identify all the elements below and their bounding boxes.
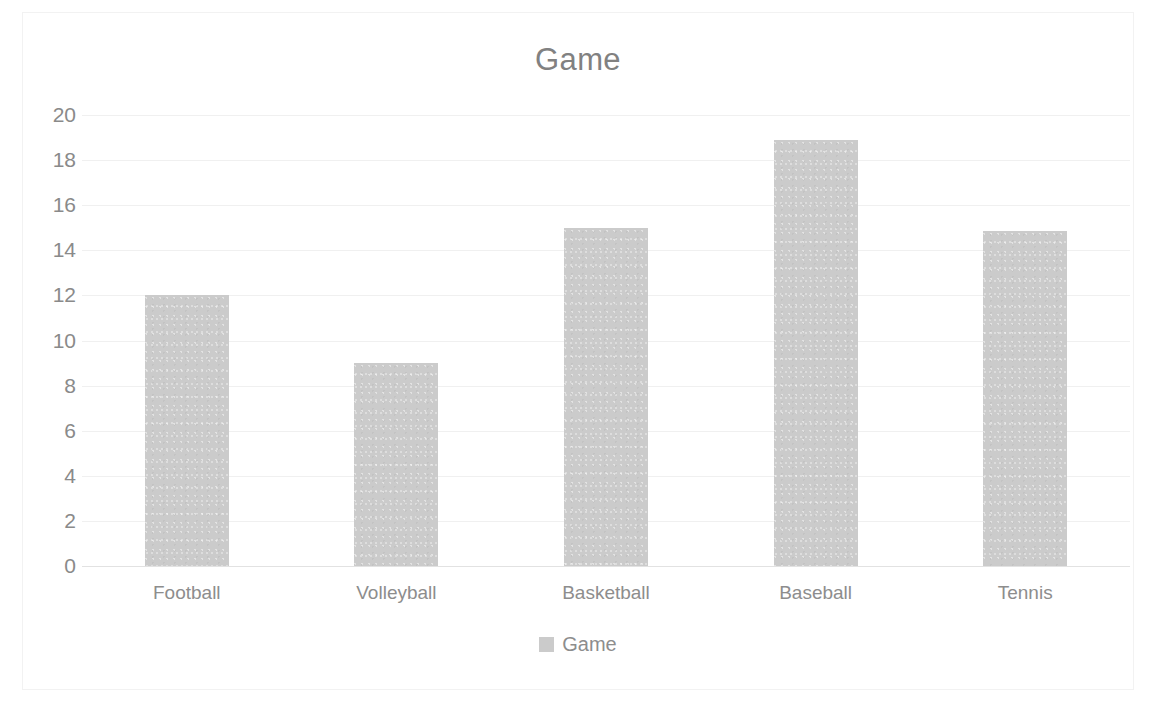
bar-baseball[interactable]: [774, 140, 858, 566]
chart-container: Game 20181614121086420 FootballVolleybal…: [0, 0, 1156, 710]
y-tick-label: 2: [20, 510, 76, 531]
y-tick-label: 8: [20, 375, 76, 396]
x-tick-label-basketball: Basketball: [501, 580, 711, 606]
x-tick-label-football: Football: [82, 580, 292, 606]
gridline-0: [82, 566, 1130, 567]
x-axis-category-labels: FootballVolleyballBasketballBaseballTenn…: [82, 580, 1130, 614]
y-tick-label: 10: [20, 330, 76, 351]
y-tick-label: 0: [20, 555, 76, 576]
y-tick-label: 6: [20, 420, 76, 441]
bar-tennis[interactable]: [983, 231, 1067, 566]
bar-slot: [145, 115, 229, 566]
bar-football[interactable]: [145, 295, 229, 566]
plot-area: [82, 115, 1130, 566]
bar-slot: [983, 115, 1067, 566]
bar-slot: [774, 115, 858, 566]
y-tick-label: 4: [20, 465, 76, 486]
y-tick-label: 16: [20, 194, 76, 215]
bar-basketball[interactable]: [564, 228, 648, 566]
chart-legend: Game: [0, 634, 1156, 654]
x-tick-label-tennis: Tennis: [920, 580, 1130, 606]
bar-volleyball[interactable]: [354, 363, 438, 566]
x-tick-label-baseball: Baseball: [711, 580, 921, 606]
bar-slot: [354, 115, 438, 566]
x-tick-label-volleyball: Volleyball: [292, 580, 502, 606]
chart-title: Game: [0, 40, 1156, 80]
legend-swatch-icon: [539, 637, 554, 652]
y-axis-tick-labels: 20181614121086420: [20, 0, 76, 710]
y-tick-label: 20: [20, 104, 76, 125]
y-tick-label: 12: [20, 284, 76, 305]
y-tick-label: 14: [20, 239, 76, 260]
bar-slot: [564, 115, 648, 566]
bar-series-game: [82, 115, 1130, 566]
y-tick-label: 18: [20, 149, 76, 170]
legend-label-game: Game: [562, 634, 616, 654]
